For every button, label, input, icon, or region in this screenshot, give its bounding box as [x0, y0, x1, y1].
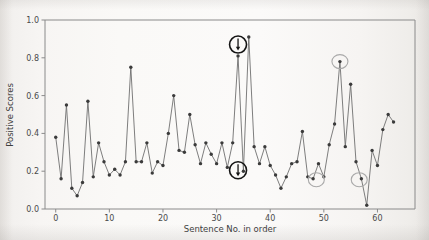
data-point-marker — [290, 162, 293, 165]
data-point-marker — [301, 130, 304, 133]
data-point-marker — [285, 175, 288, 178]
data-point-marker — [226, 166, 229, 169]
data-point-marker — [365, 204, 368, 207]
series-line-positive-scores — [56, 37, 394, 205]
x-axis-ticks: 0102030405060 — [53, 209, 382, 223]
data-point-marker — [381, 128, 384, 131]
x-axis-title: Sentence No. in order — [184, 224, 277, 234]
data-point-marker — [124, 160, 127, 163]
y-tick-label: 1.0 — [26, 16, 39, 25]
data-point-marker — [338, 60, 341, 63]
x-tick-label: 30 — [212, 214, 222, 223]
data-point-marker — [92, 175, 95, 178]
data-point-marker — [210, 152, 213, 155]
annotation-circle — [308, 173, 324, 187]
data-point-marker — [392, 120, 395, 123]
x-tick-label: 40 — [265, 214, 275, 223]
data-point-marker — [81, 181, 84, 184]
data-point-marker — [295, 160, 298, 163]
data-point-marker — [311, 177, 314, 180]
data-point-marker — [145, 141, 148, 144]
data-point-marker — [151, 171, 154, 174]
x-tick-label: 60 — [372, 214, 382, 223]
data-point-marker — [269, 164, 272, 167]
data-point-marker — [129, 66, 132, 69]
x-tick-label: 50 — [319, 214, 329, 223]
data-point-marker — [118, 173, 121, 176]
data-point-marker — [172, 94, 175, 97]
data-point-marker — [376, 164, 379, 167]
annotation-arrow-head — [236, 172, 240, 176]
y-tick-label: 0.8 — [26, 54, 39, 63]
y-axis-ticks: 0.00.20.40.60.81.0 — [26, 16, 45, 214]
x-tick-label: 20 — [158, 214, 168, 223]
x-tick-label: 0 — [53, 214, 58, 223]
data-point-marker — [236, 54, 239, 57]
figure: 0102030405060 0.00.20.40.60.81.0 Sentenc… — [0, 0, 429, 240]
data-point-marker — [108, 173, 111, 176]
y-tick-label: 0.6 — [26, 92, 39, 101]
plot-container: 0102030405060 0.00.20.40.60.81.0 Sentenc… — [0, 0, 429, 240]
data-point-marker — [86, 100, 89, 103]
data-point-marker — [360, 177, 363, 180]
data-point-marker — [70, 187, 73, 190]
annotation-arrow-head — [236, 47, 240, 51]
data-point-marker — [252, 145, 255, 148]
data-point-marker — [188, 113, 191, 116]
data-point-marker — [75, 194, 78, 197]
data-point-marker — [317, 162, 320, 165]
y-axis-title: Positive Scores — [5, 83, 15, 147]
data-point-marker — [220, 141, 223, 144]
annotation-circle — [351, 173, 367, 187]
data-point-marker — [354, 160, 357, 163]
data-point-marker — [328, 143, 331, 146]
data-point-marker — [167, 132, 170, 135]
data-point-marker — [274, 173, 277, 176]
dip-highlight-right — [351, 173, 367, 187]
data-point-marker — [263, 145, 266, 148]
data-point-marker — [242, 170, 245, 173]
data-point-marker — [140, 160, 143, 163]
high-point-callout — [230, 36, 247, 53]
data-point-marker — [215, 162, 218, 165]
data-point-marker — [344, 145, 347, 148]
data-point-marker — [199, 162, 202, 165]
data-point-marker — [247, 35, 250, 38]
data-point-marker — [183, 151, 186, 154]
data-point-marker — [177, 149, 180, 152]
data-point-marker — [161, 164, 164, 167]
line-chart: 0102030405060 0.00.20.40.60.81.0 Sentenc… — [0, 0, 429, 240]
data-point-marker — [54, 135, 57, 138]
data-point-marker — [279, 187, 282, 190]
data-point-marker — [97, 141, 100, 144]
data-point-marker — [113, 168, 116, 171]
data-point-marker — [349, 83, 352, 86]
y-tick-label: 0.4 — [26, 129, 39, 138]
data-point-marker — [193, 143, 196, 146]
data-point-marker — [231, 141, 234, 144]
data-point-marker — [370, 149, 373, 152]
data-point-marker — [156, 160, 159, 163]
data-point-marker — [102, 160, 105, 163]
data-point-marker — [59, 177, 62, 180]
data-point-marker — [333, 122, 336, 125]
data-point-marker — [65, 103, 68, 106]
dip-highlight-left — [308, 173, 324, 187]
data-point-marker — [134, 160, 137, 163]
y-tick-label: 0.2 — [26, 167, 39, 176]
x-tick-label: 10 — [104, 214, 114, 223]
data-point-marker — [386, 113, 389, 116]
data-point-marker — [204, 141, 207, 144]
data-point-marker — [258, 162, 261, 165]
y-tick-label: 0.0 — [26, 205, 39, 214]
